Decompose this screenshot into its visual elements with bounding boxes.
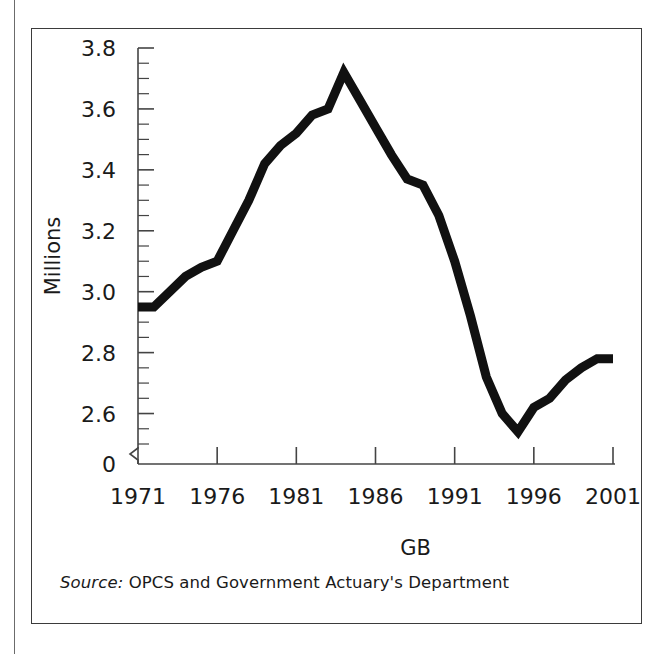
y-axis-break-symbol: [130, 446, 138, 464]
x-tick-label: 1996: [506, 484, 562, 509]
y-tick-label: 3.8: [81, 36, 116, 61]
y-tick-label: 3.6: [81, 97, 116, 122]
x-tick-label: 1976: [189, 484, 245, 509]
y-tick-label: 0: [102, 452, 116, 477]
data-series-line: [138, 72, 613, 431]
line-chart: 3.83.63.43.23.02.82.60 19711976198119861…: [0, 0, 671, 654]
y-tick-label: 3.0: [81, 280, 116, 305]
x-tick-labels-group: 1971197619811986199119962001: [110, 484, 641, 509]
x-tick-label: 1991: [427, 484, 483, 509]
x-axis-title: GB: [400, 536, 431, 560]
x-tick-label: 2001: [585, 484, 641, 509]
source-label: Source:: [60, 573, 123, 592]
y-tick-label: 2.8: [81, 341, 116, 366]
x-tick-label: 1986: [348, 484, 404, 509]
x-tick-label: 1981: [268, 484, 324, 509]
y-axis-title: Millions: [41, 217, 65, 296]
y-tick-label: 2.6: [81, 402, 116, 427]
source-note: Source: OPCS and Government Actuary's De…: [60, 573, 509, 592]
x-tick-label: 1971: [110, 484, 166, 509]
y-tick-labels-group: 3.83.63.43.23.02.82.60: [81, 36, 116, 477]
data-line-group: [138, 72, 613, 431]
source-value: OPCS and Government Actuary's Department: [129, 573, 510, 592]
y-tick-label: 3.4: [81, 158, 116, 183]
chart-canvas: 3.83.63.43.23.02.82.60 19711976198119861…: [0, 0, 671, 654]
y-tick-label: 3.2: [81, 219, 116, 244]
